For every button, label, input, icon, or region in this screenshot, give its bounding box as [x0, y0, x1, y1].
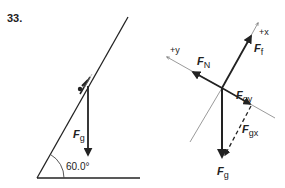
incline-surface: [37, 17, 128, 178]
friction-force-arrow: [222, 36, 251, 88]
x-axis-label: +x: [259, 27, 269, 37]
gravity-force-label: Fg: [73, 128, 85, 143]
free-body-diagram: 33. 60.0° Fg +x +y Ff FN: [0, 0, 285, 188]
force-components-diagram: +x +y Ff FN Fgy Fgx Fg: [167, 23, 275, 180]
angle-arc: [51, 155, 65, 179]
gravity-y-component-label: Fgy: [236, 89, 253, 104]
gravity-x-component-label: Fgx: [242, 123, 259, 138]
friction-force-label: Ff: [254, 42, 264, 57]
incline-reference-line: [190, 88, 222, 142]
normal-force-arrow: [193, 72, 222, 88]
angle-label: 60.0°: [66, 161, 89, 172]
gravity-force-label-right: Fg: [217, 165, 229, 180]
incline-scene: 60.0° Fg: [37, 17, 140, 178]
y-axis-label: +y: [170, 45, 180, 55]
problem-number: 33.: [7, 12, 22, 24]
normal-force-label: FN: [197, 55, 210, 70]
